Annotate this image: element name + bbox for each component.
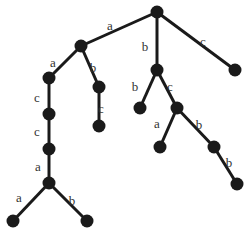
tree-svg: abcabcccaabbcabb xyxy=(0,0,247,231)
edge-label: b xyxy=(226,155,233,170)
tree-node xyxy=(134,102,147,115)
tree-node xyxy=(75,40,88,53)
edge-label: c xyxy=(34,124,40,139)
tree-node xyxy=(43,72,56,85)
tree-node xyxy=(154,141,167,154)
tree-node xyxy=(231,178,244,191)
edge-label: b xyxy=(196,117,203,132)
edge-label: b xyxy=(142,39,149,54)
edge-label: c xyxy=(167,79,173,94)
edge-label: c xyxy=(34,90,40,105)
tree-node xyxy=(229,64,242,77)
edge-label: c xyxy=(98,101,104,116)
edge-label: a xyxy=(154,116,160,131)
tree-diagram: abcabcccaabbcabb xyxy=(0,0,247,231)
edge-label: b xyxy=(69,193,76,208)
tree-node xyxy=(151,6,164,19)
tree-node xyxy=(43,177,56,190)
edge-label: a xyxy=(16,190,22,205)
tree-node xyxy=(151,64,164,77)
tree-edge xyxy=(157,12,235,70)
edge-label: a xyxy=(107,18,113,33)
edge-label: b xyxy=(132,79,139,94)
edge-label: b xyxy=(90,60,97,75)
tree-node xyxy=(171,102,184,115)
nodes-layer xyxy=(7,6,244,228)
tree-node xyxy=(7,215,20,228)
tree-node xyxy=(93,120,106,133)
tree-node xyxy=(81,215,94,228)
edge-label: a xyxy=(50,55,56,70)
tree-node xyxy=(43,143,56,156)
edge-label: a xyxy=(35,159,41,174)
edge-label: c xyxy=(200,34,206,49)
tree-node xyxy=(93,81,106,94)
tree-node xyxy=(208,141,221,154)
tree-node xyxy=(43,108,56,121)
